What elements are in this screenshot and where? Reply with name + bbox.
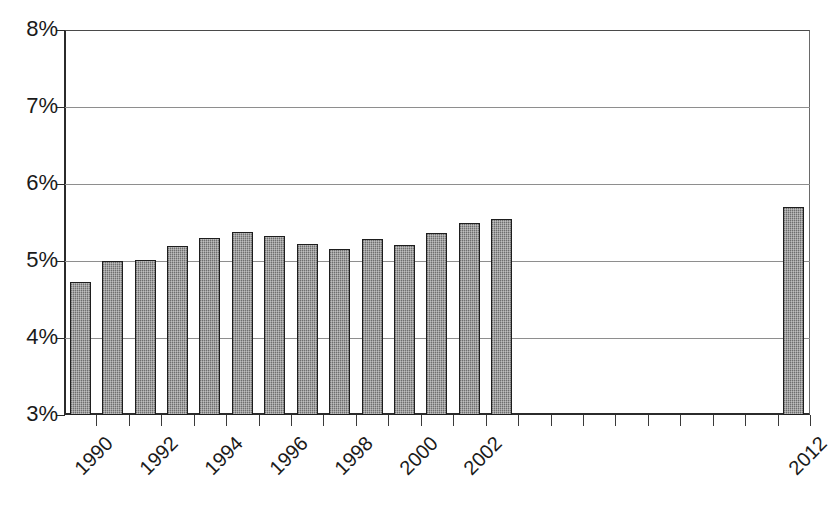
x-axis-label-1992: 1992 (135, 432, 183, 480)
x-axis-tick (551, 415, 552, 426)
x-axis-tick (356, 415, 357, 426)
x-axis-label-2012: 2012 (784, 432, 832, 480)
x-axis-tick (194, 415, 195, 426)
x-axis-tick (810, 415, 811, 426)
bar-1994 (199, 238, 220, 415)
x-axis-tick (648, 415, 649, 426)
bar-1997 (297, 244, 318, 415)
x-axis-tick (680, 415, 681, 426)
x-axis-label-2000: 2000 (395, 432, 443, 480)
y-axis-label: 8% (26, 16, 58, 42)
gridline-6% (64, 184, 810, 185)
bar-1991 (102, 261, 123, 415)
x-axis-label-1998: 1998 (330, 432, 378, 480)
y-axis-label: 4% (26, 324, 58, 350)
bar-2003 (491, 219, 512, 415)
x-axis-tick (713, 415, 714, 426)
x-axis-tick (388, 415, 389, 426)
x-axis-label-2002: 2002 (459, 432, 507, 480)
x-axis-label-1990: 1990 (70, 432, 118, 480)
x-axis-tick (615, 415, 616, 426)
bar-1990 (70, 282, 91, 415)
x-axis-label-1994: 1994 (200, 432, 248, 480)
x-axis-label-1996: 1996 (265, 432, 313, 480)
x-axis-tick (291, 415, 292, 426)
bar-2012 (783, 207, 804, 415)
gridline-7% (64, 107, 810, 108)
y-axis-label: 3% (26, 401, 58, 427)
bar-1995 (232, 232, 253, 415)
x-axis-tick (96, 415, 97, 426)
bar-1993 (167, 246, 188, 415)
bar-1992 (135, 260, 156, 415)
x-axis-tick (745, 415, 746, 426)
x-axis-tick (323, 415, 324, 426)
bar-1999 (362, 239, 383, 415)
x-axis-tick (226, 415, 227, 426)
bar-1998 (329, 249, 350, 415)
x-axis-tick (518, 415, 519, 426)
x-axis-tick (453, 415, 454, 426)
x-axis-tick (778, 415, 779, 426)
bar-1996 (264, 236, 285, 415)
y-axis-label: 5% (26, 247, 58, 273)
x-axis-tick (259, 415, 260, 426)
y-axis-label: 7% (26, 93, 58, 119)
x-axis-tick (583, 415, 584, 426)
bar-2000 (394, 245, 415, 415)
bar-2001 (426, 233, 447, 415)
x-axis-tick (129, 415, 130, 426)
x-axis-tick (486, 415, 487, 426)
bar-2002 (459, 223, 480, 415)
y-axis-label: 6% (26, 170, 58, 196)
x-axis-tick (161, 415, 162, 426)
x-axis-tick (421, 415, 422, 426)
